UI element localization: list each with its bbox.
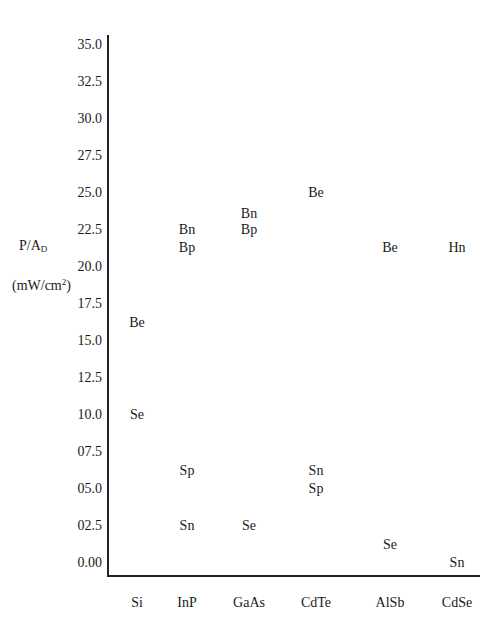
y-tick-label: 25.0 — [78, 186, 103, 200]
data-point-label: Se — [383, 538, 397, 552]
y-tick-label: 15.0 — [78, 334, 103, 348]
y-tick-label: 22.5 — [78, 223, 103, 237]
data-point-label: Hn — [448, 241, 465, 255]
y-tick-label: 30.0 — [78, 112, 103, 126]
data-point-label: Bn — [241, 207, 257, 221]
data-point-label: Sn — [309, 464, 324, 478]
x-category-label: GaAs — [233, 596, 265, 610]
data-point-label: Se — [130, 408, 144, 422]
y-tick-label: 27.5 — [78, 149, 103, 163]
y-tick-label: 20.0 — [78, 260, 103, 274]
y-axis-line — [107, 35, 109, 576]
data-point-label: Be — [308, 186, 324, 200]
data-point-label: Bp — [241, 223, 257, 237]
data-point-label: Sp — [309, 482, 324, 496]
data-point-label: Be — [129, 316, 145, 330]
data-point-label: Sp — [180, 464, 195, 478]
x-category-label: Si — [131, 596, 143, 610]
data-point-label: Se — [242, 519, 256, 533]
y-tick-label: 02.5 — [78, 519, 103, 533]
y-axis-label-line1: P/AD — [19, 239, 47, 256]
y-tick-label: 10.0 — [78, 408, 103, 422]
data-point-label: Bn — [179, 223, 195, 237]
x-category-label: AlSb — [376, 596, 405, 610]
y-tick-label: 12.5 — [78, 371, 103, 385]
x-category-label: CdTe — [301, 596, 331, 610]
data-point-label: Sn — [450, 556, 465, 570]
data-point-label: Bp — [179, 241, 195, 255]
y-tick-label: 07.5 — [78, 445, 103, 459]
y-tick-label: 35.0 — [78, 38, 103, 52]
x-axis-line — [107, 575, 480, 577]
y-axis-label-line2: (mW/cm2) — [12, 275, 71, 293]
data-point-label: Be — [382, 241, 398, 255]
data-point-label: Sn — [180, 519, 195, 533]
y-tick-label: 17.5 — [78, 297, 103, 311]
y-tick-label: 0.00 — [78, 556, 103, 570]
y-tick-label: 32.5 — [78, 75, 103, 89]
x-category-label: CdSe — [442, 596, 472, 610]
y-tick-label: 05.0 — [78, 482, 103, 496]
x-category-label: InP — [177, 596, 196, 610]
chart: P/AD (mW/cm2) 35.032.530.027.525.022.520… — [0, 0, 503, 629]
